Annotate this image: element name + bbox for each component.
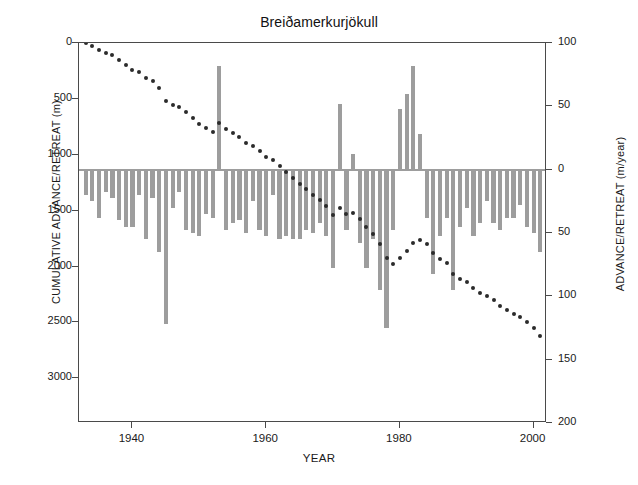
data-point [204, 126, 208, 130]
y-axis-right-tick [546, 232, 552, 233]
x-axis-tick [399, 422, 400, 428]
bar [525, 170, 529, 227]
data-point [425, 242, 429, 246]
data-point [251, 144, 255, 148]
data-point [338, 206, 342, 210]
y-axis-left-tick-label: 1000 [12, 147, 72, 159]
data-point [331, 213, 335, 217]
data-point [478, 291, 482, 295]
data-point [498, 304, 502, 308]
plot-series-layer [79, 43, 545, 421]
data-point [271, 158, 275, 162]
y-axis-right-tick-label: 100 [558, 35, 602, 47]
bar [184, 170, 188, 231]
data-point [90, 44, 94, 48]
x-axis-tick [131, 422, 132, 428]
data-point [258, 149, 262, 153]
bar [478, 170, 482, 223]
data-point [197, 122, 201, 126]
bar [338, 104, 342, 170]
bar [177, 170, 181, 193]
data-point [485, 294, 489, 298]
bar [505, 170, 509, 218]
data-point [525, 320, 529, 324]
bar [298, 170, 302, 240]
data-point [184, 110, 188, 114]
y-axis-left-tick-label: 500 [12, 91, 72, 103]
bar [418, 134, 422, 169]
data-point [151, 79, 155, 83]
bar [137, 170, 141, 195]
bar [405, 94, 409, 170]
data-point [164, 99, 168, 103]
bar [318, 170, 322, 223]
y-axis-right-tick-label: 150 [558, 352, 602, 364]
data-point [144, 76, 148, 80]
bar [264, 170, 268, 236]
bar [411, 66, 415, 170]
x-axis-tick-label: 1960 [235, 432, 295, 444]
x-axis-tick-label: 2000 [503, 432, 563, 444]
x-axis-tick [265, 422, 266, 428]
bar [371, 170, 375, 240]
bar [144, 170, 148, 240]
bar [110, 170, 114, 198]
y-axis-right-tick [546, 42, 552, 43]
bar [117, 170, 121, 221]
bar [130, 170, 134, 227]
bar [425, 170, 429, 218]
bar [224, 170, 228, 231]
bar [311, 170, 315, 233]
data-point [191, 116, 195, 120]
data-point [137, 70, 141, 74]
y-axis-right-tick [546, 169, 552, 170]
bar [378, 170, 382, 290]
bar [358, 170, 362, 243]
data-point [291, 176, 295, 180]
bar [284, 170, 288, 236]
y-axis-right-label: ADVANCE/RETREAT (m/year) [614, 64, 626, 364]
bar [511, 170, 515, 218]
data-point [471, 286, 475, 290]
data-point [371, 232, 375, 236]
data-point [411, 241, 415, 245]
y-axis-left-tick-label: 0 [12, 35, 72, 47]
bar [438, 170, 442, 236]
bar [164, 170, 168, 325]
data-point [458, 277, 462, 281]
y-axis-left-tick-label: 3000 [12, 370, 72, 382]
bar [124, 170, 128, 227]
bar [491, 170, 495, 223]
x-axis-tick-label: 1940 [101, 432, 161, 444]
data-point [518, 315, 522, 319]
bar [231, 170, 235, 223]
bar [532, 170, 536, 233]
x-axis-tick [533, 422, 534, 428]
zero-baseline [79, 169, 546, 170]
bar [157, 170, 161, 252]
data-point [231, 131, 235, 135]
data-point [405, 249, 409, 253]
data-point [311, 193, 315, 197]
data-point [117, 58, 121, 62]
bar [485, 170, 489, 202]
bar [150, 170, 154, 198]
y-axis-right-tick-label: 200 [558, 415, 602, 427]
bar [97, 170, 101, 218]
data-point [130, 68, 134, 72]
x-axis-tick-label: 1980 [369, 432, 429, 444]
data-point [224, 127, 228, 131]
bar [90, 170, 94, 202]
y-axis-left-tick-label: 1500 [12, 203, 72, 215]
y-axis-right-tick-label: 50 [558, 98, 602, 110]
data-point [124, 63, 128, 67]
y-axis-right-tick-label: 100 [558, 288, 602, 300]
page-title: Breiðamerkurjökull [0, 14, 638, 30]
bar [344, 170, 348, 231]
bar [204, 170, 208, 214]
bar [304, 170, 308, 231]
bar [518, 170, 522, 205]
data-point [391, 262, 395, 266]
data-point [177, 105, 181, 109]
bar [244, 170, 248, 233]
